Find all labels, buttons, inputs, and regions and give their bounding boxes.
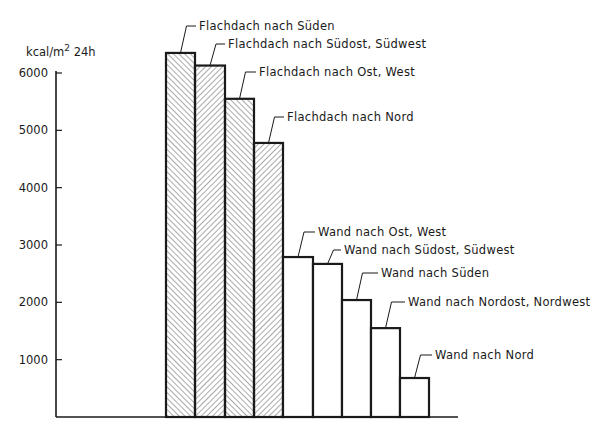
bar-wand-6 <box>342 300 371 417</box>
chart-container: kcal/m2 24h 100020003000400050006000 Fla… <box>0 0 608 432</box>
y-tick-label: 6000 <box>19 66 48 80</box>
bar-label: Wand nach Nord <box>435 348 534 362</box>
bar-label: Flachdach nach Ost, West <box>259 65 415 79</box>
bar-wand-7 <box>371 328 400 417</box>
bar-label: Flachdach nach Nord <box>287 110 414 124</box>
leader-line <box>240 72 257 99</box>
leader-line <box>357 273 379 300</box>
bar-wand-8 <box>400 378 429 417</box>
bar-flachdach-1 <box>195 66 225 417</box>
bar-flachdach-0 <box>166 53 195 417</box>
bar-label: Wand nach Ost, West <box>318 225 447 239</box>
bar-wand-5 <box>313 264 342 417</box>
y-axis-label: kcal/m2 24h <box>26 43 96 59</box>
leader-line <box>181 26 197 53</box>
leader-line <box>269 117 285 143</box>
bar-label: Flachdach nach Süden <box>199 19 335 33</box>
y-tick-label: 3000 <box>19 238 48 252</box>
bar-flachdach-2 <box>225 99 254 417</box>
leader-line <box>415 355 433 378</box>
bar-wand-4 <box>283 257 313 417</box>
bar-label: Wand nach Südost, Südwest <box>344 243 515 257</box>
leader-line <box>328 250 342 264</box>
y-tick-label: 4000 <box>19 181 48 195</box>
bar-label: Wand nach Süden <box>381 266 489 280</box>
leader-line <box>210 44 225 66</box>
leader-line <box>298 232 315 257</box>
bar-label: Flachdach nach Südost, Südwest <box>228 37 426 51</box>
bar-chart: kcal/m2 24h 100020003000400050006000 Fla… <box>0 0 608 432</box>
y-tick-label: 2000 <box>19 295 48 309</box>
y-tick-label: 1000 <box>19 353 48 367</box>
bar-label: Wand nach Nordost, Nordwest <box>408 295 591 309</box>
bar-flachdach-3 <box>254 143 283 417</box>
leader-line <box>386 302 406 328</box>
y-tick-label: 5000 <box>19 123 48 137</box>
